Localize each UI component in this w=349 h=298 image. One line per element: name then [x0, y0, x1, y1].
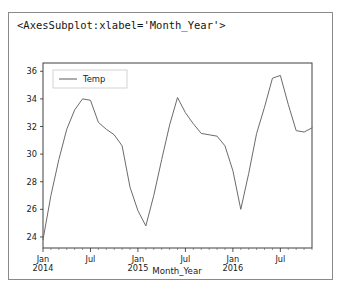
line-series-temp	[43, 75, 312, 239]
x-tick-label-month: Jul	[274, 254, 285, 264]
x-tick-label-year: 2016	[222, 263, 243, 273]
x-tick-label-month: Jul	[85, 254, 96, 264]
notebook-output-cell: <AxesSubplot:xlabel='Month_Year'> 242628…	[8, 12, 333, 280]
x-tick-label-month: Jul	[179, 254, 190, 264]
chart-legend: Temp	[53, 70, 127, 88]
y-tick-label: 28	[27, 177, 37, 187]
axes-frame	[43, 63, 312, 248]
y-tick-label: 36	[27, 66, 37, 76]
line-chart: 24262830323436 Jan2014JulJan2015JulJan20…	[9, 39, 332, 279]
matplotlib-figure: 24262830323436 Jan2014JulJan2015JulJan20…	[9, 39, 332, 279]
legend-label-temp: Temp	[82, 74, 105, 84]
x-tick-label-year: 2014	[33, 263, 54, 273]
y-tick-label: 32	[27, 122, 37, 132]
x-axis-title: Month_Year	[152, 266, 202, 276]
y-tick-label: 34	[27, 94, 37, 104]
y-tick-label: 30	[27, 149, 37, 159]
y-tick-label: 24	[27, 232, 37, 242]
x-tick-label-year: 2015	[128, 263, 149, 273]
y-tick-label: 26	[27, 204, 37, 214]
plot-border	[43, 63, 312, 248]
data-series-group	[43, 75, 312, 239]
axes-repr-text: <AxesSubplot:xlabel='Month_Year'>	[17, 19, 226, 31]
y-axis-ticks: 24262830323436	[27, 66, 43, 242]
